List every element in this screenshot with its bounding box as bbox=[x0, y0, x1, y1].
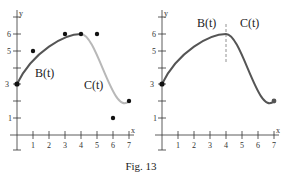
left-y-label-5: 5 bbox=[7, 47, 11, 56]
right-x-label-2: 2 bbox=[192, 141, 196, 150]
left-control-points bbox=[14, 32, 131, 120]
right-b-label: B(t) bbox=[197, 16, 216, 30]
control-point-5 bbox=[111, 116, 115, 120]
left-b-label: B(t) bbox=[35, 66, 54, 80]
left-x-label-4: 4 bbox=[79, 141, 83, 150]
control-point-0 bbox=[14, 81, 19, 86]
right-x-label-1: 1 bbox=[176, 141, 180, 150]
right-x-label-3: 3 bbox=[208, 141, 212, 150]
right-panel: 6 5 3 1 1 2 3 4 5 6 7 y x B(t) C(t) bbox=[150, 9, 280, 150]
right-c-label: C(t) bbox=[240, 16, 259, 30]
left-x-label-7: 7 bbox=[127, 141, 131, 150]
left-c-curve bbox=[81, 34, 129, 103]
right-end-point bbox=[272, 99, 277, 104]
left-x-label-3: 3 bbox=[63, 141, 67, 150]
right-y-axis-name: y bbox=[164, 9, 168, 18]
right-y-label-5: 5 bbox=[152, 47, 156, 56]
left-y-label-6: 6 bbox=[7, 30, 11, 39]
control-point-1 bbox=[31, 49, 35, 53]
left-panel: 6 5 3 1 1 2 3 4 5 6 7 y x B(t) C(t) bbox=[5, 9, 135, 150]
control-point-6 bbox=[127, 99, 131, 103]
control-point-3 bbox=[79, 32, 83, 36]
right-x-label-5: 5 bbox=[240, 141, 244, 150]
left-x-label-1: 1 bbox=[31, 141, 35, 150]
right-x-axis-name: x bbox=[276, 126, 280, 135]
right-y-label-1: 1 bbox=[153, 114, 157, 123]
left-x-label-2: 2 bbox=[47, 141, 51, 150]
right-y-label-6: 6 bbox=[152, 30, 156, 39]
right-x-label-4: 4 bbox=[224, 141, 228, 150]
right-x-label-6: 6 bbox=[256, 141, 260, 150]
control-point-2 bbox=[63, 32, 67, 36]
left-x-label-6: 6 bbox=[111, 141, 115, 150]
figure-caption: Fig. 13 bbox=[0, 160, 282, 172]
left-c-label: C(t) bbox=[84, 78, 103, 92]
left-x-axis-name: x bbox=[131, 126, 135, 135]
right-start-point bbox=[159, 81, 164, 86]
right-joined-curve bbox=[162, 34, 274, 103]
left-y-label-3: 3 bbox=[5, 80, 9, 89]
right-y-label-3: 3 bbox=[150, 80, 154, 89]
figure-canvas: 6 5 3 1 1 2 3 4 5 6 7 y x B(t) C(t) bbox=[0, 0, 282, 181]
right-x-label-7: 7 bbox=[272, 141, 276, 150]
left-x-label-5: 5 bbox=[95, 141, 99, 150]
control-point-4 bbox=[95, 32, 99, 36]
left-y-label-1: 1 bbox=[8, 114, 12, 123]
left-y-axis-name: y bbox=[19, 9, 23, 18]
